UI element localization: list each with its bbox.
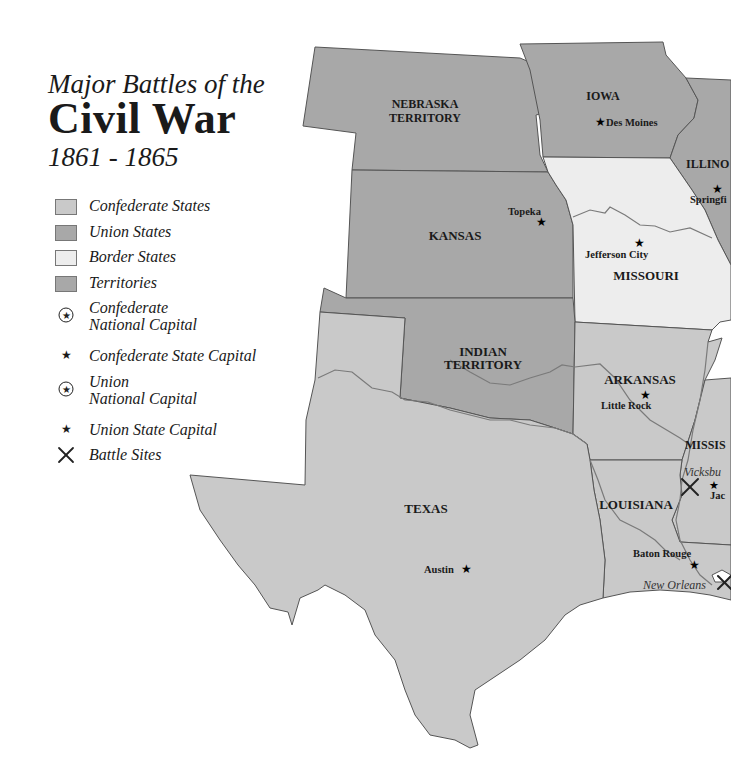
legend-label: Confederate State Capital: [89, 347, 256, 364]
legend-label: Territories: [89, 274, 157, 291]
battle-label-new-orleans: New Orleans: [642, 578, 706, 592]
star-icon: ★: [634, 236, 645, 250]
star-icon: ★: [536, 215, 547, 229]
city-little-rock[interactable]: Little Rock: [601, 400, 652, 411]
circled-star-icon: ★: [55, 381, 77, 397]
label-louisiana: LOUISIANA: [599, 497, 673, 512]
title-line2: Civil War: [48, 98, 265, 140]
legend-union-states: Union States: [55, 223, 295, 249]
star-icon: ★: [55, 422, 77, 436]
union-swatch: [55, 225, 77, 241]
legend-confederate-state-capital: ★ Confederate State Capital: [55, 347, 295, 373]
star-icon: ★: [461, 562, 472, 576]
city-des-moines[interactable]: Des Moines: [606, 117, 658, 128]
label-nebraska: NEBRASKA: [392, 97, 459, 111]
star-icon: ★: [55, 348, 77, 362]
legend-label: Union States: [89, 223, 171, 240]
legend-confederate-national-capital: ★ ConfederateNational Capital: [55, 299, 295, 347]
legend-union-national-capital: ★ UnionNational Capital: [55, 373, 295, 421]
confederate-swatch: [55, 199, 77, 215]
legend-label: ConfederateNational Capital: [89, 299, 197, 333]
city-jefferson-city[interactable]: Jefferson City: [585, 249, 649, 260]
battle-label-vicksburg: Vicksbu: [684, 465, 721, 479]
label-missouri: MISSOURI: [613, 268, 679, 283]
label-illinois: ILLINO: [686, 157, 729, 171]
svg-text:★: ★: [62, 384, 71, 395]
map-legend: Confederate States Union States Border S…: [55, 197, 295, 472]
star-icon: ★: [595, 115, 606, 129]
legend-label: Battle Sites: [89, 446, 161, 463]
label-nebraska-territory: TERRITORY: [389, 111, 461, 125]
city-austin[interactable]: Austin: [424, 564, 454, 575]
legend-union-state-capital: ★ Union State Capital: [55, 421, 295, 447]
circled-star-icon: ★: [55, 307, 77, 323]
star-icon: ★: [689, 558, 700, 572]
city-baton-rouge[interactable]: Baton Rouge: [633, 548, 691, 559]
map-title: Major Battles of the Civil War 1861 - 18…: [48, 70, 265, 172]
label-mississippi: MISSIS: [685, 438, 726, 452]
svg-text:★: ★: [62, 310, 71, 321]
legend-confederate-states: Confederate States: [55, 197, 295, 223]
label-texas: TEXAS: [404, 501, 447, 516]
label-arkansas: ARKANSAS: [604, 372, 676, 387]
legend-battle-sites: Battle Sites: [55, 446, 295, 472]
label-iowa: IOWA: [586, 89, 620, 103]
legend-label: Confederate States: [89, 197, 210, 214]
label-indian-territory: TERRITORY: [444, 357, 523, 372]
legend-label: Border States: [89, 248, 176, 265]
city-jackson[interactable]: Jac: [710, 490, 726, 501]
legend-label: Union State Capital: [89, 421, 217, 438]
territory-swatch: [55, 276, 77, 292]
legend-territories: Territories: [55, 274, 295, 300]
title-years: 1861 - 1865: [48, 142, 265, 172]
cross-icon: [55, 446, 77, 464]
legend-label: UnionNational Capital: [89, 373, 197, 407]
border-swatch: [55, 250, 77, 266]
legend-border-states: Border States: [55, 248, 295, 274]
label-kansas: KANSAS: [429, 228, 482, 243]
city-springfield[interactable]: Springfi: [690, 194, 727, 205]
